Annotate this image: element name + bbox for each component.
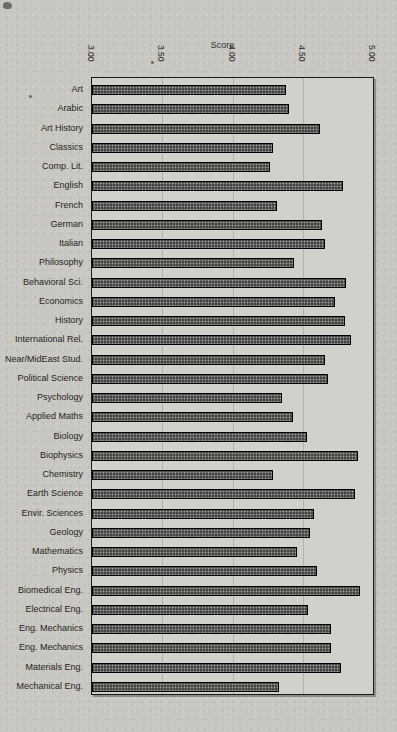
bar — [92, 643, 331, 653]
gridline — [303, 78, 304, 694]
bar — [92, 489, 355, 499]
plot-area — [91, 77, 374, 695]
bar — [92, 181, 343, 191]
category-label: Biophysics — [0, 450, 87, 460]
category-label: Art — [0, 84, 87, 94]
category-label: Biology — [0, 431, 87, 441]
category-label: Physics — [0, 565, 87, 575]
category-label: Electrical Eng. — [0, 604, 87, 614]
bar — [92, 335, 351, 345]
category-label: Chemistry — [0, 469, 87, 479]
bar — [92, 470, 273, 480]
category-label: Behavioral Sci. — [0, 277, 87, 287]
bar — [92, 258, 294, 268]
bar — [92, 297, 335, 307]
category-label: Applied Maths — [0, 411, 87, 421]
bar — [92, 432, 307, 442]
category-label: History — [0, 315, 87, 325]
bar — [92, 528, 310, 538]
scan-speck — [3, 2, 12, 9]
bar — [92, 412, 293, 422]
bar — [92, 201, 277, 211]
category-label: Philosophy — [0, 257, 87, 267]
category-label: Earth Science — [0, 488, 87, 498]
x-tick-label: 3.50 — [156, 45, 166, 69]
category-label: Political Science — [0, 373, 87, 383]
category-label: Envir. Sciences — [0, 508, 87, 518]
category-label: English — [0, 180, 87, 190]
category-label: Eng. Mechanics — [0, 642, 87, 652]
category-label: Art History — [0, 123, 87, 133]
bar — [92, 663, 341, 673]
x-tick-label: 4.50 — [297, 45, 307, 69]
category-label: Italian — [0, 238, 87, 248]
bar — [92, 682, 279, 692]
category-label: Comp. Lit. — [0, 161, 87, 171]
bar — [92, 162, 270, 172]
category-label: Psychology — [0, 392, 87, 402]
category-label: Materials Eng. — [0, 662, 87, 672]
x-tick-label: 4.00 — [227, 45, 237, 69]
category-label: German — [0, 219, 87, 229]
category-label: Arabic — [0, 103, 87, 113]
bar — [92, 374, 328, 384]
bar — [92, 239, 325, 249]
bar — [92, 355, 325, 365]
bar — [92, 451, 358, 461]
bar — [92, 509, 314, 519]
x-tick-label: 3.00 — [86, 45, 96, 69]
bar — [92, 566, 317, 576]
category-label: Mathematics — [0, 546, 87, 556]
category-label: Eng. Mechanics — [0, 623, 87, 633]
x-axis-title: Score — [82, 40, 363, 50]
bar — [92, 393, 282, 403]
bar — [92, 316, 345, 326]
bar — [92, 220, 322, 230]
bar — [92, 624, 331, 634]
bar — [92, 547, 297, 557]
bar — [92, 143, 273, 153]
category-label: International Rel. — [0, 334, 87, 344]
bar — [92, 278, 346, 288]
category-label: French — [0, 200, 87, 210]
bar — [92, 605, 308, 615]
category-label: Biomedical Eng. — [0, 585, 87, 595]
scan-speck — [151, 61, 154, 64]
category-label: Classics — [0, 142, 87, 152]
bar — [92, 586, 360, 596]
category-label: Mechanical Eng. — [0, 681, 87, 691]
x-tick-label: 5.00 — [367, 45, 377, 69]
bar — [92, 85, 286, 95]
category-label: Geology — [0, 527, 87, 537]
category-label: Near/MidEast Stud. — [0, 354, 87, 364]
category-label: Economics — [0, 296, 87, 306]
bar — [92, 104, 289, 114]
scan-speck — [29, 95, 32, 98]
bar — [92, 124, 320, 134]
scanned-page: Score 3.003.504.004.505.00 ArtArabicArt … — [0, 0, 397, 732]
